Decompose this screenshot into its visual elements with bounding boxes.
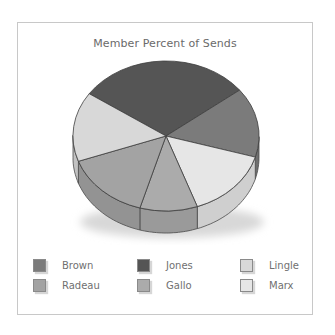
legend-label: Gallo [166, 280, 192, 291]
legend-label: Brown [62, 260, 93, 271]
legend-item-lingle: Lingle [240, 259, 299, 272]
legend-swatch-marx [240, 279, 253, 292]
legend-item-marx: Marx [240, 279, 294, 292]
legend-item-radeau: Radeau [33, 279, 100, 292]
legend-item-gallo: Gallo [137, 279, 192, 292]
legend-swatch-brown [33, 259, 46, 272]
legend-swatch-radeau [33, 279, 46, 292]
pie-slices [73, 61, 259, 211]
legend-item-brown: Brown [33, 259, 93, 272]
legend-label: Marx [269, 280, 294, 291]
legend-item-jones: Jones [137, 259, 193, 272]
legend-swatch-jones [137, 259, 150, 272]
legend-swatch-gallo [137, 279, 150, 292]
legend-label: Jones [166, 260, 193, 271]
legend-label: Radeau [62, 280, 100, 291]
legend-label: Lingle [269, 260, 299, 271]
legend-swatch-lingle [240, 259, 253, 272]
